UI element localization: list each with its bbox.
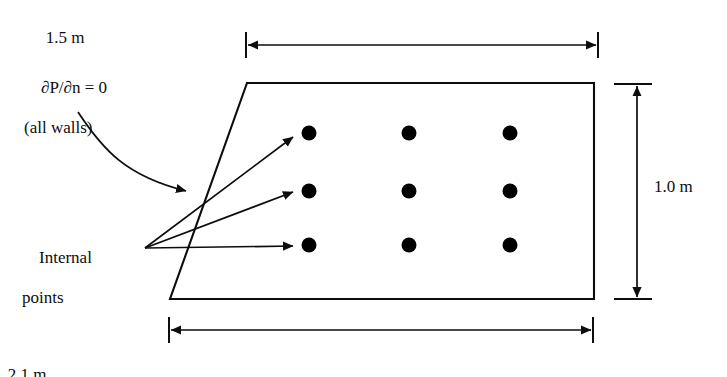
dimension-top-label: 1.5 m — [0, 8, 727, 68]
dimension-top-value: 1.5 m — [46, 28, 85, 47]
dimension-right — [614, 84, 652, 299]
grid-point — [302, 126, 317, 141]
internal-points-grid — [302, 126, 518, 253]
grid-point — [302, 238, 317, 253]
internal-points-label: Internal points — [22, 228, 92, 348]
boundary-condition-line2: (all walls) — [24, 118, 107, 138]
grid-point — [503, 184, 518, 199]
grid-point — [402, 238, 417, 253]
internal-points-line2: points — [22, 288, 92, 308]
grid-point — [402, 126, 417, 141]
dimension-bottom — [169, 317, 593, 343]
grid-point — [402, 184, 417, 199]
grid-point — [503, 126, 518, 141]
grid-point — [302, 184, 317, 199]
dimension-bottom-value: 2.1 m — [8, 365, 47, 377]
internal-point-leaders — [145, 137, 293, 248]
engineering-diagram: ∂P/∂n = 0 (all walls) Internal points 1.… — [0, 0, 727, 377]
boundary-condition-line1: ∂P/∂n = 0 — [41, 78, 107, 97]
dimension-bottom-label: 2.1 m — [0, 345, 727, 377]
boundary-condition-label: ∂P/∂n = 0 (all walls) — [24, 58, 107, 178]
domain-outline — [170, 83, 594, 299]
dimension-right-label: 1.0 m — [654, 177, 693, 197]
grid-point — [503, 238, 518, 253]
internal-points-line1: Internal — [39, 248, 92, 267]
